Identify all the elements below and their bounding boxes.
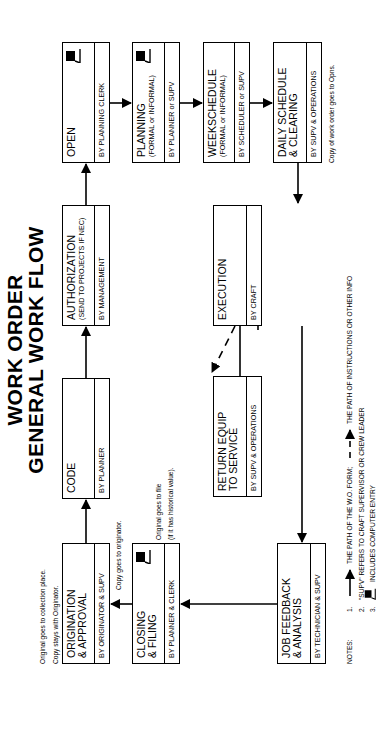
closing-title2: & FILING — [147, 549, 158, 658]
box-closing: CLOSING & FILING BY PLANNER & CLERK — [132, 543, 180, 664]
week-schedule-title: WEEKSCHEDULE — [207, 48, 218, 157]
open-title: OPEN — [66, 48, 77, 157]
origination-note-1: Original goes to collection place. — [39, 569, 46, 664]
box-open: OPEN BY PLANNING CLERK — [62, 42, 110, 163]
box-week-schedule: WEEKSCHEDULE (FORMAL or INFORMAL) BY SCH… — [203, 42, 250, 163]
note-1-text-a: THE PATH OF THE W.O. FORM; — [346, 467, 353, 564]
week-schedule-subtitle: (FORMAL or INFORMAL) — [218, 48, 227, 157]
code-title: CODE — [66, 384, 77, 493]
note-3-text: INCLUDES COMPUTER ENTRY — [369, 485, 376, 582]
execution-by: BY CRAFT — [246, 206, 261, 325]
note-1-num: 1. — [346, 607, 353, 613]
closing-file-note-2: (if it has historical value). — [167, 467, 174, 540]
notes-label: NOTES: — [346, 639, 353, 664]
box-execution: EXECUTION BY CRAFT — [213, 205, 262, 326]
title-line1: WORK ORDER — [4, 200, 25, 500]
computer-entry-icon — [364, 588, 376, 600]
box-daily-schedule: DAILY SCHEDULE & CLEARING BY SUPV & OPER… — [273, 42, 322, 163]
work-order-flow-diagram: WORK ORDER GENERAL WORK FLOW OPEN BY PLA… — [0, 0, 378, 730]
origination-title2: & APPROVAL — [77, 549, 88, 658]
box-authorization: AUTHORIZATION (SEND TO PROJECTS IF NEC) … — [62, 205, 110, 326]
code-by: BY PLANNER — [94, 379, 109, 498]
execution-title: EXECUTION — [217, 211, 228, 320]
title-line2: GENERAL WORK FLOW — [25, 200, 46, 500]
box-code: CODE BY PLANNER — [62, 378, 110, 499]
authorization-subtitle: (SEND TO PROJECTS IF NEC) — [77, 211, 86, 320]
closing-copy-note: Copy goes to originator. — [115, 520, 122, 590]
box-origination: ORIGINATION & APPROVAL BY ORIGINATOR & S… — [62, 543, 110, 664]
diagram-title: WORK ORDER GENERAL WORK FLOW — [4, 200, 46, 500]
computer-entry-icon — [65, 49, 81, 63]
authorization-title: AUTHORIZATION — [66, 211, 77, 320]
daily-schedule-title2: & CLEARING — [288, 48, 299, 157]
computer-entry-icon — [135, 49, 151, 63]
box-return-equip: RETURN EQUIP TO SERVICE BY SUPV & OPERAT… — [213, 376, 262, 497]
note-3-num: 3. — [369, 607, 376, 613]
open-by: BY PLANNING CLERK — [94, 43, 109, 162]
planning-by: BY PLANNER or SUPV — [164, 43, 179, 162]
daily-copy-note: Copy of work order goes to Opns. — [328, 64, 335, 163]
box-job-feedback: JOB FEEDBACK & ANALYSIS BY TECHNICIAN & … — [277, 543, 326, 664]
note-2-num: 2. — [358, 607, 365, 613]
note-1-text-b: THE PATH OF INSTRUCTIONS OR OTHER INFO — [346, 276, 353, 424]
return-equip-by: BY SUPV & OPERATIONS — [246, 377, 261, 496]
origination-note-2: Copy stays with Originator. — [52, 586, 59, 664]
return-equip-title2: TO SERVICE — [228, 382, 239, 491]
closing-by: BY PLANNER & CLERK — [164, 544, 179, 663]
week-schedule-by: BY SCHEDULER or SUPV — [234, 43, 249, 162]
job-feedback-by: BY TECHNICIAN & SUPV — [310, 544, 325, 663]
daily-schedule-by: BY SUPV & OPERATIONS — [306, 43, 321, 162]
job-feedback-title2: & ANALYSIS — [292, 549, 303, 658]
box-planning: PLANNING (FORMAL or INFORMAL) BY PLANNER… — [132, 42, 180, 163]
authorization-by: BY MANAGEMENT — [94, 206, 109, 325]
origination-by: BY ORIGINATOR & SUPV — [94, 544, 109, 663]
computer-entry-icon — [135, 550, 151, 564]
planning-title: PLANNING — [136, 48, 147, 157]
closing-file-note-1: Original goes to file — [155, 484, 162, 540]
planning-subtitle: (FORMAL or INFORMAL) — [147, 48, 156, 157]
note-2-text: "SUPV" REFERS TO CRAFT SUPERVISOR OR CRE… — [358, 407, 365, 600]
